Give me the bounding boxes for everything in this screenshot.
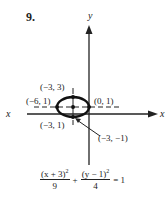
x-axis-label: x <box>6 108 10 119</box>
equals-one: = 1 <box>113 175 125 185</box>
label-right-point: (0, 1) <box>94 96 114 106</box>
label-bottom-point: (−3, −1) <box>98 133 128 143</box>
numerator-y: (y − 1) <box>82 169 107 179</box>
point-bottom <box>71 115 75 119</box>
exponent-y: 2 <box>106 168 109 174</box>
denominator-y: 4 <box>93 180 98 191</box>
exponent-x: 2 <box>66 168 69 174</box>
point-center <box>71 105 75 109</box>
label-top-point: (−3, 3) <box>40 82 65 92</box>
x-axis-label-right: x <box>160 108 164 119</box>
plus-sign: + <box>73 175 78 185</box>
x-axis-arrow-icon <box>148 111 158 118</box>
label-left-point: (−6, 1) <box>26 96 51 106</box>
point-left <box>55 105 59 109</box>
y-axis-label: y <box>88 10 92 21</box>
point-right <box>87 105 91 109</box>
denominator-x: 9 <box>53 180 58 191</box>
fraction-y: (y − 1)2 4 <box>81 168 111 191</box>
label-center-point: (−3, 1) <box>40 120 65 130</box>
numerator-x: (x + 3) <box>41 169 66 179</box>
y-axis-arrow-icon <box>86 25 93 34</box>
point-top <box>71 95 75 99</box>
fraction-x: (x + 3)2 9 <box>40 168 70 191</box>
ellipse-equation: (x + 3)2 9 + (y − 1)2 4 = 1 <box>40 168 125 191</box>
